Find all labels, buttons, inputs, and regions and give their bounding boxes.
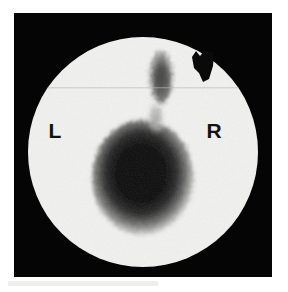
horizontal-scanline-artifact (28, 87, 258, 88)
scintigraphy-figure: L R (0, 0, 288, 292)
orientation-marker-right: R (206, 119, 221, 142)
film-grain-overlay (28, 37, 258, 267)
orientation-marker-left: L (49, 119, 62, 142)
scan-image: L R (0, 0, 288, 292)
bottom-edge-artifact (8, 281, 158, 286)
